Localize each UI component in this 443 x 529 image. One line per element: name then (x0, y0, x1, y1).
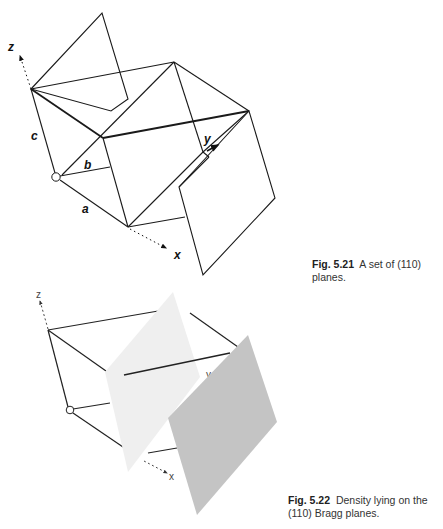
edge-label-a: a (82, 202, 89, 216)
figure-number: Fig. 5.21 (312, 258, 354, 270)
origin-marker (52, 173, 60, 181)
origin-marker-2 (66, 406, 74, 414)
edge-label-b: b (84, 158, 91, 172)
z-axis-label-2: z (36, 289, 41, 300)
x-axis-label-2: x (169, 471, 174, 482)
figure-number: Fig. 5.22 (288, 494, 330, 506)
unit-cell-diagram (31, 13, 275, 275)
caption-text-line-2: (110) Bragg planes. (288, 507, 428, 520)
z-axis-arrow (20, 56, 31, 89)
x-axis-arrow (130, 229, 166, 248)
x-axis-arrow-2 (144, 461, 167, 473)
y-axis-label: y (203, 132, 212, 146)
z-axis-arrow-2 (40, 301, 48, 329)
z-axis-label: z (7, 40, 14, 54)
figure-caption-5-22: Fig. 5.22 Density lying on the (110) Bra… (288, 494, 428, 520)
bragg-planes-diagram: y z x (36, 289, 277, 515)
x-axis-label: x (173, 248, 182, 262)
front-plane (179, 111, 275, 275)
caption-text-line-1: Density lying on the (336, 494, 428, 506)
figure-caption-5-21: Fig. 5.21 A set of (110) planes. (312, 258, 443, 284)
back-plane (31, 13, 128, 111)
edge-label-c: c (31, 129, 38, 143)
